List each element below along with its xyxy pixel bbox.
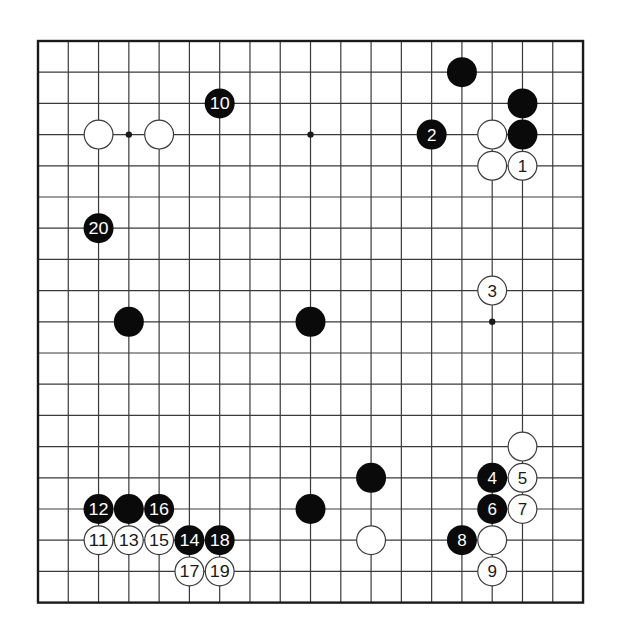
white-stone: 7: [508, 495, 537, 524]
black-stone: [296, 307, 326, 337]
black-stone: [356, 463, 386, 493]
black-stone: [447, 57, 477, 87]
move-number-label: 7: [518, 500, 527, 519]
white-stone-disc: [508, 432, 537, 461]
white-stone: 19: [205, 557, 234, 586]
white-stone-disc: [478, 526, 507, 555]
white-stone: [357, 526, 386, 555]
move-number-label: 6: [487, 500, 496, 519]
black-stone-disc: [507, 88, 537, 118]
move-number-label: 9: [487, 562, 496, 581]
move-number-label: 19: [210, 562, 230, 581]
white-stone-disc: [478, 120, 507, 149]
white-stone: [145, 120, 174, 149]
star-point: [489, 319, 495, 325]
move-number-label: 8: [457, 531, 466, 550]
white-stone-disc: [478, 151, 507, 180]
black-stone: 14: [174, 525, 204, 555]
white-stone: [478, 120, 507, 149]
white-stone: 5: [508, 463, 537, 492]
white-stone: [84, 120, 113, 149]
white-stone: 15: [145, 526, 174, 555]
black-stone-disc: [114, 307, 144, 337]
white-stone: 13: [114, 526, 143, 555]
move-number-label: 15: [149, 531, 169, 550]
white-stone-disc: [357, 526, 386, 555]
black-stone: [507, 88, 537, 118]
black-stone: 6: [477, 494, 507, 524]
move-number-label: 10: [210, 94, 230, 113]
star-point: [126, 131, 132, 137]
move-number-label: 14: [179, 531, 199, 550]
white-stone: 11: [84, 526, 113, 555]
black-stone: 12: [84, 494, 114, 524]
move-number-label: 1: [518, 157, 527, 176]
white-stone-disc: [145, 120, 174, 149]
move-number-label: 20: [89, 219, 109, 238]
move-number-label: 12: [89, 500, 109, 519]
black-stone: 16: [144, 494, 174, 524]
black-stone: [507, 120, 537, 150]
white-stone: [478, 526, 507, 555]
black-stone-disc: [296, 494, 326, 524]
black-stone: [296, 494, 326, 524]
black-stone: 8: [447, 525, 477, 555]
move-number-label: 13: [119, 531, 139, 550]
move-number-label: 17: [179, 562, 199, 581]
black-stone: 18: [205, 525, 235, 555]
black-stone-disc: [507, 120, 537, 150]
black-stone: 20: [84, 213, 114, 243]
black-stone-disc: [114, 494, 144, 524]
move-number-label: 11: [89, 531, 109, 550]
black-stone: 10: [205, 88, 235, 118]
move-number-label: 18: [210, 531, 230, 550]
move-number-label: 3: [487, 282, 496, 301]
black-stone-disc: [356, 463, 386, 493]
white-stone-disc: [84, 120, 113, 149]
white-stone: [478, 151, 507, 180]
star-point: [307, 131, 313, 137]
move-number-label: 4: [487, 469, 496, 488]
move-number-label: 5: [518, 469, 527, 488]
black-stone: [114, 307, 144, 337]
black-stone: 2: [417, 120, 447, 150]
black-stone: 4: [477, 463, 507, 493]
black-stone-disc: [447, 57, 477, 87]
white-stone: 17: [175, 557, 204, 586]
white-stone: [508, 432, 537, 461]
white-stone: 9: [478, 557, 507, 586]
white-stone: 3: [478, 276, 507, 305]
move-number-label: 2: [427, 126, 436, 145]
go-board[interactable]: 2110203456789121611131514181719: [0, 0, 618, 643]
black-stone-disc: [296, 307, 326, 337]
move-number-label: 16: [149, 500, 169, 519]
white-stone: 1: [508, 151, 537, 180]
black-stone: [114, 494, 144, 524]
